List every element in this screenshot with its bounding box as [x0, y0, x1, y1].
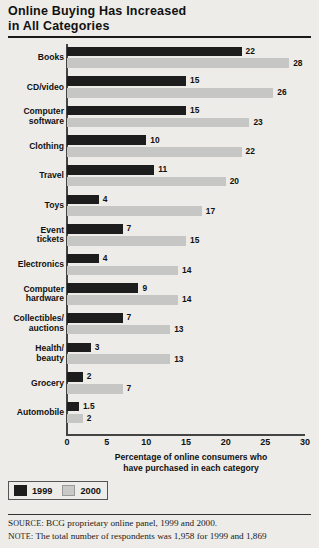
bar-row: Collectibles/auctions713 [0, 310, 319, 340]
bar-value-1999: 7 [127, 224, 132, 234]
bar-group: 1523 [67, 103, 319, 133]
x-axis-label: Percentage of online consumers whohave p… [66, 452, 316, 473]
bar-value-2000: 22 [246, 147, 255, 157]
bar-2000 [67, 118, 249, 128]
bar-row: Books2228 [0, 44, 319, 74]
x-axis-label-line: have purchased in each category [66, 463, 316, 474]
bar-group: 713 [67, 310, 319, 340]
bar-2000 [67, 384, 123, 394]
bar-2000 [67, 177, 226, 187]
bar-2000 [67, 266, 178, 276]
source-smallcaps: OURCE [13, 519, 41, 528]
chart-figure: Online Buying Has Increased in All Categ… [0, 0, 319, 548]
bar-value-1999: 11 [158, 165, 167, 175]
bar-value-1999: 9 [142, 284, 147, 294]
category-label: Automobile [0, 408, 64, 418]
category-label: CD/video [0, 83, 64, 93]
bar-2000 [67, 58, 289, 68]
bar-group: 414 [67, 251, 319, 281]
bar-value-2000: 7 [127, 384, 132, 394]
bar-row: Grocery27 [0, 370, 319, 400]
bar-value-1999: 1.5 [83, 402, 95, 412]
bar-value-1999: 10 [150, 136, 159, 146]
bar-2000 [67, 147, 242, 157]
chart-title-line-1: Online Buying Has Increased [8, 4, 308, 19]
bar-row: Computerhardware914 [0, 281, 319, 311]
bar-value-2000: 26 [277, 88, 286, 98]
x-tick-label: 30 [290, 437, 319, 447]
bar-value-2000: 13 [174, 355, 183, 365]
bar-group: 1120 [67, 162, 319, 192]
bar-group: 417 [67, 192, 319, 222]
bar-1999 [67, 106, 186, 116]
bar-2000 [67, 295, 178, 305]
category-label: Books [0, 53, 64, 63]
bar-value-1999: 4 [103, 195, 108, 205]
bar-value-1999: 15 [190, 76, 199, 86]
plot-area: Books2228CD/video1526Computersoftware152… [0, 44, 319, 436]
category-label: Health/beauty [0, 344, 64, 363]
category-label: Computersoftware [0, 107, 64, 126]
legend-item-1999: 1999 [14, 485, 52, 496]
bar-2000 [67, 236, 186, 246]
bar-value-1999: 3 [95, 343, 100, 353]
note-prefix: N [8, 531, 15, 541]
bar-2000 [67, 206, 202, 216]
x-axis-line [66, 434, 305, 436]
bar-group: 1.52 [67, 399, 319, 429]
bar-row: Automobile1.52 [0, 399, 319, 429]
x-tick-label: 0 [52, 437, 82, 447]
bar-1999 [67, 76, 186, 86]
x-tick-label: 10 [131, 437, 161, 447]
bar-1999 [67, 283, 138, 293]
legend-item-2000: 2000 [62, 485, 100, 496]
bar-value-1999: 2 [87, 372, 92, 382]
legend-label-2000: 2000 [80, 486, 100, 496]
bar-1999 [67, 224, 123, 234]
bar-value-2000: 2 [87, 414, 92, 424]
bar-group: 1526 [67, 74, 319, 104]
legend-label-1999: 1999 [32, 486, 52, 496]
bar-1999 [67, 254, 99, 264]
category-label: Travel [0, 171, 64, 181]
bar-2000 [67, 414, 83, 424]
bar-1999 [67, 195, 99, 205]
bar-1999 [67, 372, 83, 382]
bar-1999 [67, 165, 154, 175]
source-text: : BCG proprietary online panel, 1999 and… [41, 518, 217, 528]
bar-row: Travel1120 [0, 162, 319, 192]
bar-1999 [67, 343, 91, 353]
legend-swatch-2000 [62, 485, 75, 496]
category-label: Electronics [0, 260, 64, 270]
footer-divider [8, 514, 311, 515]
note-text: : The total number of respondents was 1,… [31, 531, 267, 541]
category-label: Computerhardware [0, 285, 64, 304]
bar-group: 2228 [67, 44, 319, 74]
source-note: SOURCE: BCG proprietary online panel, 19… [8, 518, 313, 530]
bar-group: 313 [67, 340, 319, 370]
chart-legend: 1999 2000 [8, 481, 108, 500]
bar-value-1999: 15 [190, 106, 199, 116]
bar-value-2000: 28 [293, 59, 302, 69]
x-tick-label: 25 [250, 437, 280, 447]
bar-group: 27 [67, 370, 319, 400]
chart-title: Online Buying Has Increased in All Categ… [8, 4, 308, 33]
bar-1999 [67, 313, 123, 323]
note-note: NOTE: The total number of respondents wa… [8, 531, 313, 543]
bar-1999 [67, 402, 79, 412]
bar-row: Toys417 [0, 192, 319, 222]
x-tick-label: 5 [92, 437, 122, 447]
title-divider [8, 36, 311, 38]
bar-value-1999: 7 [127, 313, 132, 323]
category-label: Toys [0, 201, 64, 211]
bar-2000 [67, 354, 170, 364]
category-label: Eventtickets [0, 226, 64, 245]
bar-1999 [67, 47, 242, 57]
bar-1999 [67, 135, 146, 145]
bar-row: Electronics414 [0, 251, 319, 281]
x-tick-label: 20 [211, 437, 241, 447]
legend-swatch-1999 [14, 485, 27, 496]
bar-value-1999: 4 [103, 254, 108, 264]
x-axis-label-line: Percentage of online consumers who [66, 452, 316, 463]
bar-value-2000: 20 [230, 177, 239, 187]
